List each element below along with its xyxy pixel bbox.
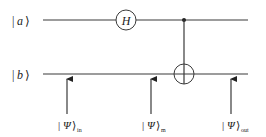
svg-text:Ψ: Ψ: [227, 119, 236, 131]
svg-text:a: a: [17, 14, 23, 28]
svg-text:Ψ: Ψ: [147, 119, 156, 131]
svg-text:⟩: ⟩: [236, 119, 240, 131]
quantum-circuit-diagram: | a ⟩ | b ⟩ H | Ψ ⟩ in | Ψ ⟩ m | Ψ ⟩: [0, 0, 266, 137]
svg-text:⟩: ⟩: [156, 119, 160, 131]
svg-text:⟩: ⟩: [25, 68, 30, 82]
svg-text:|: |: [142, 119, 144, 131]
state-label-out: | Ψ ⟩ out: [222, 119, 249, 133]
svg-text:⟩: ⟩: [25, 14, 30, 28]
svg-text:|: |: [12, 14, 14, 28]
svg-text:⟩: ⟩: [72, 119, 76, 131]
qubit-a-label: | a ⟩: [12, 14, 30, 28]
svg-text:|: |: [12, 68, 14, 82]
svg-text:m: m: [161, 127, 166, 133]
qubit-b-label: | b ⟩: [12, 68, 30, 82]
svg-text:Ψ: Ψ: [63, 119, 72, 131]
svg-text:H: H: [121, 14, 132, 28]
svg-text:|: |: [222, 119, 224, 131]
svg-text:|: |: [58, 119, 60, 131]
svg-text:b: b: [17, 68, 23, 82]
state-label-m: | Ψ ⟩ m: [142, 119, 166, 133]
state-label-in: | Ψ ⟩ in: [58, 119, 82, 133]
hadamard-gate: H: [116, 10, 136, 30]
svg-text:out: out: [241, 127, 249, 133]
svg-text:in: in: [77, 127, 82, 133]
